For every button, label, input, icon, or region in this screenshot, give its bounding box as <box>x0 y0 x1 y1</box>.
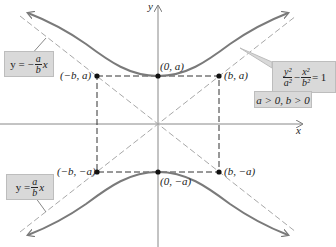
label-point-neg-b-a: (−b, a) <box>60 69 91 81</box>
asymptote-negative-prefix: y = − <box>10 58 33 70</box>
point-0-neg-a <box>155 169 160 174</box>
label-point-b-a: (b, a) <box>224 69 248 81</box>
equation-b-squared: b² <box>301 78 311 88</box>
label-point-neg-b-neg-a: (−b, −a) <box>57 165 96 177</box>
equation-term-y: y² a² <box>283 67 293 88</box>
asymptote-negative-suffix: x <box>43 58 48 70</box>
equation-a-squared: a² <box>283 78 293 88</box>
point-neg-b-a <box>94 73 99 78</box>
x-axis-label: x <box>296 124 301 136</box>
asymptote-positive-prefix: y = <box>16 181 30 193</box>
label-point-b-neg-a: (b, −a) <box>224 165 255 177</box>
condition-callout: a > 0, b > 0 <box>254 91 312 108</box>
asymptote-positive-callout: y = a b x <box>6 174 54 200</box>
equation-term-x: x² b² <box>301 67 311 88</box>
equation-rhs: = 1 <box>312 71 326 83</box>
equation-callout: y² a² − x² b² = 1 <box>272 61 336 93</box>
point-b-a <box>216 73 221 78</box>
callout-leader-equation <box>240 48 272 68</box>
point-b-neg-a <box>216 169 221 174</box>
fraction-denominator: b <box>35 65 42 75</box>
asymptote-negative-fraction: a b <box>35 54 42 75</box>
fraction-numerator: a <box>35 54 42 65</box>
asymptote-positive-suffix: x <box>39 181 44 193</box>
label-point-0-a: (0, a) <box>160 60 184 72</box>
y-axis-label: y <box>148 0 153 12</box>
condition-text: a > 0, b > 0 <box>256 94 309 106</box>
fraction-numerator: a <box>31 177 38 188</box>
equation-x-squared: x² <box>301 67 310 78</box>
hyperbola-diagram <box>0 0 336 247</box>
asymptote-positive-fraction: a b <box>31 177 38 198</box>
equation-minus: − <box>294 71 300 83</box>
label-point-0-neg-a: (0, −a) <box>160 175 191 187</box>
fraction-denominator: b <box>31 188 38 198</box>
equation-y-squared: y² <box>283 67 292 78</box>
point-0-a <box>155 73 160 78</box>
asymptote-negative-callout: y = − a b x <box>4 51 54 77</box>
